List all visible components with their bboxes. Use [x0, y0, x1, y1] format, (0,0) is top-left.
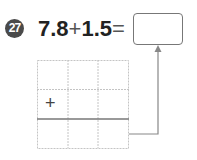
vertical-calculation-grid	[0, 0, 197, 160]
arrow-line	[129, 50, 158, 134]
grid-plus-sign: +	[45, 94, 56, 112]
arrow-head-icon	[155, 45, 162, 52]
